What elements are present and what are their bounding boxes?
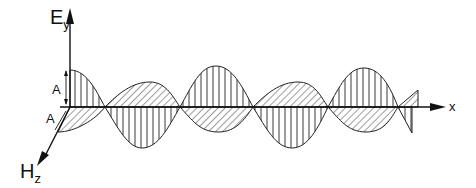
x-axis-arrow-icon — [430, 103, 446, 111]
x-axis-label: x — [449, 99, 456, 114]
em-wave-diagram — [0, 0, 476, 188]
e-axis-label: Ey — [50, 6, 70, 29]
e-amplitude-label: A — [52, 82, 61, 97]
h-amplitude-label: A — [46, 111, 55, 126]
h-axis-label: Hz — [20, 160, 41, 183]
